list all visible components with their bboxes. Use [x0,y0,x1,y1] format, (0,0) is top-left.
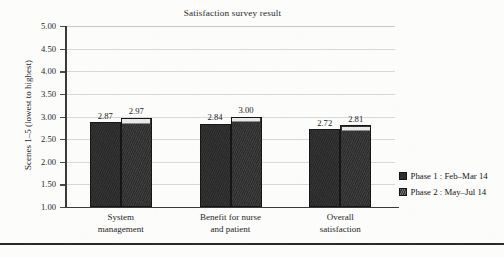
y-axis-tick-mark [60,71,65,72]
category-label-line: satisfaction [320,224,361,236]
chart-figure: Satisfaction survey result Scenes 1–5 (l… [0,0,504,257]
phase2-swatch [399,188,407,196]
bar-value-label: 2.84 [207,112,222,122]
y-axis-spine [65,26,67,208]
legend-item-label: Phase 1 : Feb–Mar 14 [411,171,488,181]
bar-value-label: 2.72 [317,118,332,128]
y-axis-tick-label: 1.00 [12,202,56,212]
gridline [66,71,395,72]
legend-item[interactable]: Phase 2 : May–Jul 14 [399,184,488,200]
y-axis-tick-label: 3.00 [12,112,56,122]
legend-item[interactable]: Phase 1 : Feb–Mar 14 [399,168,488,184]
bar-value-label: 2.81 [348,114,363,124]
category-label-line: System [98,212,144,224]
y-axis-tick-mark [60,139,65,140]
y-axis-tick-label: 3.50 [12,89,56,99]
bar [340,125,371,207]
x-axis-spine [61,207,399,209]
chart-legend: Phase 1 : Feb–Mar 14Phase 2 : May–Jul 14 [399,168,488,200]
bar-value-label: 2.87 [98,111,113,121]
gridline [66,94,395,95]
category-label-line: management [98,224,144,236]
x-axis-category-label: Overallsatisfaction [320,212,361,235]
bar [121,118,152,207]
bar [90,122,121,207]
category-label-line: and patient [200,224,261,236]
legend-item-label: Phase 2 : May–Jul 14 [411,187,487,197]
y-axis-tick-mark [60,26,65,27]
bar-value-label: 2.97 [129,106,144,116]
y-axis-tick-mark [60,117,65,118]
y-axis-tick-label: 1.50 [12,179,56,189]
y-axis-tick-label: 2.50 [12,134,56,144]
y-axis-tick-label: 4.50 [12,44,56,54]
category-label-line: Overall [320,212,361,224]
bottom-rule-divider [0,243,504,245]
phase1-swatch [399,172,407,180]
y-axis-tick-mark [60,49,65,50]
plot-area [66,26,395,207]
y-axis-tick-label: 2.00 [12,157,56,167]
y-axis-tick-label: 5.00 [12,21,56,31]
x-axis-category-label: Systemmanagement [98,212,144,235]
gridline [66,26,395,27]
y-axis-tick-mark [60,184,65,185]
y-axis-tick-mark [60,94,65,95]
y-axis-tick-mark [60,162,65,163]
y-axis-tick-label: 4.00 [12,66,56,76]
category-label-line: Benefit for nurse [200,212,261,224]
bar-value-label: 3.00 [238,105,253,115]
bar [309,129,340,207]
gridline [66,49,395,50]
bar [231,117,262,208]
x-axis-category-label: Benefit for nurseand patient [200,212,261,235]
chart-title: Satisfaction survey result [70,8,395,18]
y-axis-tick-mark [60,207,65,208]
bar [200,124,231,207]
